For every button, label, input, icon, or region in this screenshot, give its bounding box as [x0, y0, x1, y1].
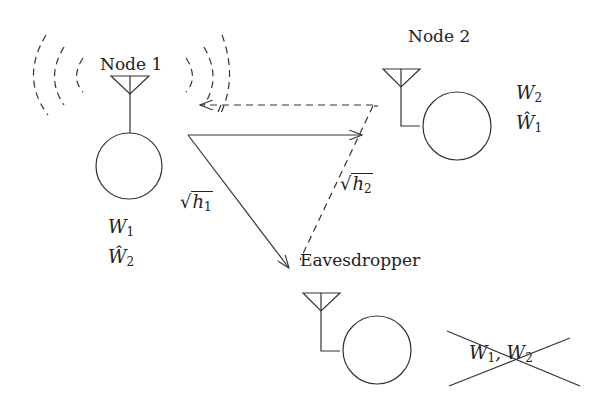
h2-sub: 2 [364, 182, 372, 196]
node2-device-circle [423, 92, 491, 160]
node2-message: W2 [516, 84, 542, 104]
node1-estimate-symbol: Ŵ [108, 246, 127, 267]
node1-message: W1 [108, 218, 134, 238]
node1-message-sub: 1 [127, 225, 135, 239]
node1-estimate-sub: 2 [127, 255, 135, 269]
crossed-w1-sub: 1 [488, 351, 496, 365]
eavesdropper-device-circle [343, 316, 411, 384]
node2-message-sub: 2 [535, 91, 543, 105]
crossed-w1-symbol: W [469, 342, 488, 363]
channel-gain-h1: √h1 [180, 191, 213, 213]
crossed-w2-symbol: W [507, 342, 526, 363]
eavesdropper-label: Eavesdropper [300, 252, 420, 269]
node1-device-circle [96, 133, 162, 199]
node2-estimate: Ŵ1 [516, 114, 542, 134]
node1-label: Node 1 [100, 56, 162, 73]
node2-antenna-icon [383, 69, 420, 126]
radiation-waves-right [186, 35, 230, 115]
node2-estimate-sub: 1 [535, 121, 543, 135]
node1-antenna-icon [111, 76, 149, 133]
node2-label: Node 2 [408, 28, 470, 45]
radiation-waves-left [33, 35, 83, 115]
channel-gain-h2: √h2 [340, 173, 373, 195]
node1-estimate: Ŵ2 [108, 248, 134, 268]
node2-message-symbol: W [516, 82, 535, 103]
h2-symbol: h [352, 173, 364, 194]
crossed-w2-sub: 2 [525, 351, 533, 365]
h1-sub: 1 [204, 200, 212, 214]
node2-estimate-symbol: Ŵ [516, 112, 535, 133]
h1-symbol: h [192, 191, 204, 212]
node1-message-symbol: W [108, 216, 127, 237]
eavesdropper-antenna-icon [303, 293, 340, 351]
eavesdropper-crossed-messages: W1, W2 [469, 344, 533, 364]
link-dash-tail [218, 105, 221, 112]
comma: , [495, 342, 506, 363]
